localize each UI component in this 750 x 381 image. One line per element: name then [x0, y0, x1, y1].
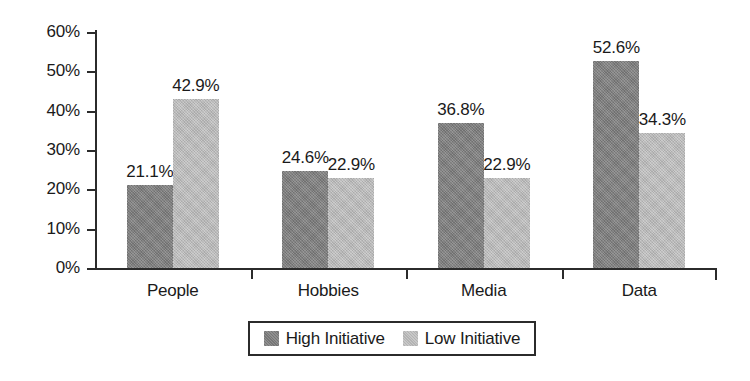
y-axis-tick-mark [87, 189, 96, 191]
bar-people-low-initiative [173, 99, 219, 268]
y-axis-tick-label: 40% [24, 102, 80, 119]
x-axis-left-cap [95, 258, 97, 270]
bar-value-label: 22.9% [319, 156, 383, 173]
bar-hobbies-low-initiative [328, 178, 374, 268]
bar-value-label: 52.6% [584, 39, 648, 56]
bar-value-label: 42.9% [164, 77, 228, 94]
bar-people-high-initiative [127, 185, 173, 268]
legend-label-low-initiative: Low Initiative [425, 330, 520, 347]
y-axis-tick-label: 10% [24, 220, 80, 237]
y-axis-tick-mark [87, 32, 96, 34]
y-axis-tick-mark [87, 71, 96, 73]
legend-label-high-initiative: High Initiative [286, 330, 385, 347]
legend-swatch-icon-high-initiative [264, 331, 279, 346]
x-axis-label-hobbies: Hobbies [258, 281, 398, 300]
bar-hobbies-high-initiative [282, 171, 328, 268]
legend-entry-high-initiative[interactable]: High Initiative [264, 330, 385, 347]
y-axis-tick-label: 60% [24, 23, 80, 40]
x-axis-tick-mark [406, 268, 408, 279]
y-axis-tick-label: 50% [24, 62, 80, 79]
y-axis-tick-label: 0% [24, 259, 80, 276]
x-axis-tick-mark [562, 268, 564, 279]
legend-swatch-icon-low-initiative [403, 331, 418, 346]
bar-value-label: 36.8% [429, 101, 493, 118]
bar-data-high-initiative [593, 61, 639, 268]
bar-media-low-initiative [484, 178, 530, 268]
x-axis-label-media: Media [414, 281, 554, 300]
bar-value-label: 22.9% [475, 156, 539, 173]
x-axis-right-cap [715, 268, 717, 280]
y-axis-tick-mark [87, 150, 96, 152]
x-axis-tick-mark [251, 268, 253, 279]
bar-data-low-initiative [639, 133, 685, 268]
y-axis-tick-label: 30% [24, 141, 80, 158]
x-axis-label-data: Data [569, 281, 709, 300]
bar-value-label: 34.3% [630, 111, 694, 128]
y-axis-tick-mark [87, 229, 96, 231]
legend-entry-low-initiative[interactable]: Low Initiative [403, 330, 520, 347]
y-axis-tick-mark [87, 111, 96, 113]
chart-legend: High Initiative Low Initiative [248, 321, 536, 356]
y-axis-tick-label: 20% [24, 180, 80, 197]
bar-chart: 60%50%40%30%20%10%0% 21.1%42.9%24.6%22.9… [0, 0, 750, 381]
x-axis-label-people: People [103, 281, 243, 300]
bar-media-high-initiative [438, 123, 484, 268]
